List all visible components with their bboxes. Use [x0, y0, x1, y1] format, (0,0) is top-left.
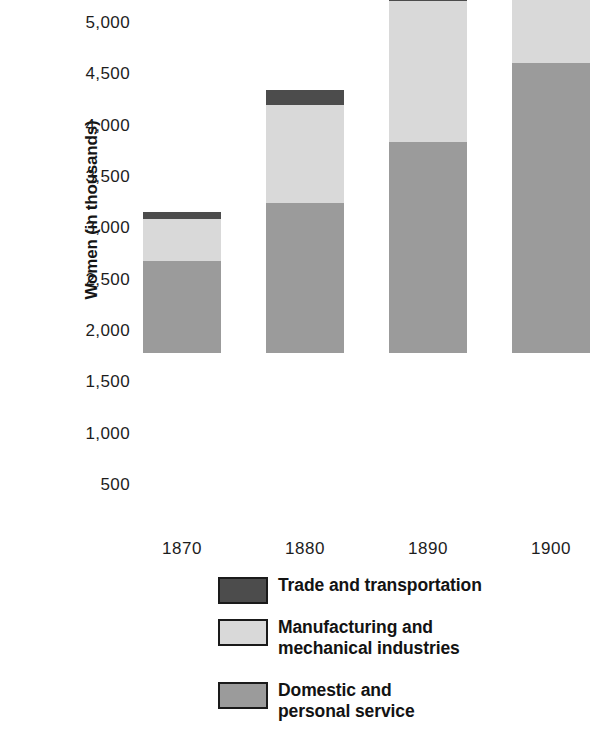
- legend-item-trade[interactable]: Trade and transportation: [218, 575, 482, 604]
- bar-segment-domestic-1900[interactable]: [512, 63, 590, 353]
- legend-label-domestic: Domestic and personal service: [278, 680, 415, 721]
- x-tick-1880: 1880: [250, 539, 360, 559]
- bar-segment-trade-1870[interactable]: [143, 212, 221, 219]
- x-tick-1870: 1870: [127, 539, 237, 559]
- legend-label-manufacturing: Manufacturing and mechanical industries: [278, 617, 460, 658]
- stacked-bar-chart: Women (in thousands) 5,000 4,500 4,000 3…: [0, 0, 600, 739]
- bar-segment-trade-1880[interactable]: [266, 90, 344, 105]
- bar-stack-1870[interactable]: [143, 212, 221, 353]
- legend-swatch-manufacturing-icon: [218, 619, 268, 646]
- legend-label-trade: Trade and transportation: [278, 575, 482, 596]
- legend-swatch-trade-icon: [218, 577, 268, 604]
- bar-segment-domestic-1880[interactable]: [266, 203, 344, 353]
- bar-segment-manufacturing-1890[interactable]: [389, 1, 467, 142]
- bar-segment-manufacturing-1880[interactable]: [266, 105, 344, 203]
- bar-stack-1900[interactable]: [512, 0, 590, 353]
- plot-area: 1870 1880 1890 1900: [0, 0, 600, 560]
- legend-item-domestic[interactable]: Domestic and personal service: [218, 680, 415, 721]
- chart-legend: Trade and transportation Manufacturing a…: [0, 575, 600, 739]
- bar-stack-1890[interactable]: [389, 0, 467, 353]
- legend-item-manufacturing[interactable]: Manufacturing and mechanical industries: [218, 617, 460, 658]
- x-tick-1900: 1900: [496, 539, 600, 559]
- bar-segment-manufacturing-1870[interactable]: [143, 219, 221, 261]
- legend-swatch-domestic-icon: [218, 682, 268, 709]
- bar-segment-domestic-1870[interactable]: [143, 261, 221, 353]
- x-tick-1890: 1890: [373, 539, 483, 559]
- bar-segment-domestic-1890[interactable]: [389, 142, 467, 353]
- bar-stack-1880[interactable]: [266, 90, 344, 353]
- bar-segment-manufacturing-1900[interactable]: [512, 0, 590, 63]
